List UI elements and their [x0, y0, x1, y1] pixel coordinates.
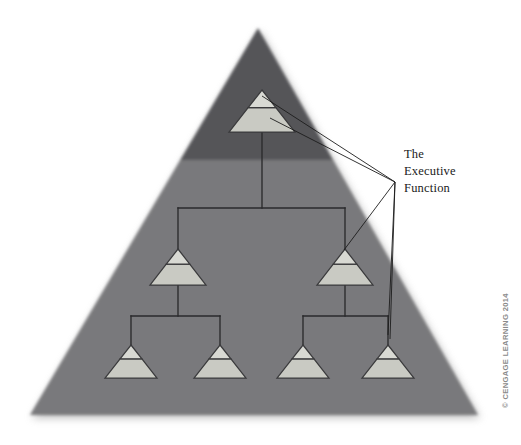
label-line-1: The	[404, 147, 424, 161]
label-line-2: Executive	[404, 164, 456, 178]
figure-canvas: TheExecutiveFunction © CENGAGE LEARNING …	[0, 0, 521, 445]
copyright-credit: © CENGAGE LEARNING 2014	[501, 293, 510, 408]
executive-function-diagram: TheExecutiveFunction © CENGAGE LEARNING …	[0, 0, 521, 445]
credit-label: © CENGAGE LEARNING 2014	[501, 293, 510, 408]
label-line-3: Function	[404, 181, 451, 195]
large-background-triangle	[0, 0, 521, 445]
annotation-label: TheExecutiveFunction	[404, 147, 456, 195]
